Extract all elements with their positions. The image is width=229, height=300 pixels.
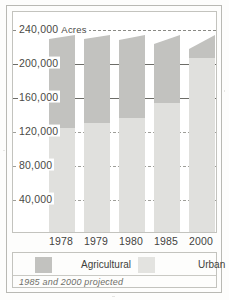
ytick-240000-text: 240,000 — [19, 23, 58, 35]
bar-segment-agricultural-1979 — [84, 35, 110, 123]
ytick-200000: 200,000 — [18, 57, 60, 69]
ytick-240000: 240,000Acres — [18, 23, 89, 35]
bar-segment-urban-1980 — [119, 118, 145, 232]
xtick-1979: 1979 — [81, 235, 111, 247]
ytick-80000: 80,000 — [18, 159, 54, 171]
bar-2000 — [189, 35, 215, 232]
legend-swatch-urban-icon — [138, 257, 155, 273]
chart-footnote: 1985 and 2000 projected — [19, 277, 123, 287]
bar-segment-urban-1985 — [154, 103, 180, 232]
ytick-160000: 160,000 — [18, 91, 60, 103]
bar-segment-agricultural-2000 — [189, 35, 215, 58]
legend-swatch-agricultural-icon — [35, 257, 52, 273]
plot-area: 240,000Acres 200,000 160,000 120,000 80,… — [13, 12, 216, 232]
x-axis: 1978 1979 1980 1985 2000 — [12, 235, 217, 251]
legend-item-agricultural: Agricultural — [35, 256, 155, 275]
bar-segment-agricultural-1978 — [49, 35, 75, 128]
bar-1979 — [84, 35, 110, 232]
scan-speck — [3, 150, 5, 151]
bar-segment-agricultural-1985 — [154, 35, 180, 103]
xtick-1978: 1978 — [46, 235, 76, 247]
bar-segment-urban-1978 — [49, 128, 75, 232]
ytick-40000: 40,000 — [18, 193, 54, 205]
legend-label-agricultural: Agricultural — [81, 259, 131, 270]
legend-divider — [13, 275, 216, 276]
bar-segment-urban-1979 — [84, 123, 110, 232]
bar-1980 — [119, 35, 145, 232]
legend: Agricultural Urban 1985 and 2000 project… — [12, 252, 217, 288]
scan-speck — [112, 296, 115, 297]
chart-page: 240,000Acres 200,000 160,000 120,000 80,… — [0, 0, 229, 300]
scan-speck — [224, 90, 225, 92]
plot-frame: 240,000Acres 200,000 160,000 120,000 80,… — [12, 11, 217, 233]
bar-segment-urban-2000 — [189, 58, 215, 232]
bar-segment-agricultural-1980 — [119, 35, 145, 118]
xtick-1985: 1985 — [151, 235, 181, 247]
bar-1985 — [154, 35, 180, 232]
legend-label-urban: Urban — [198, 259, 225, 270]
xtick-1980: 1980 — [116, 235, 146, 247]
axis-unit-label: Acres — [58, 24, 86, 35]
xtick-2000: 2000 — [186, 235, 216, 247]
ytick-120000: 120,000 — [18, 125, 60, 137]
legend-item-urban: Urban — [138, 256, 218, 275]
legend-items: Agricultural Urban — [13, 256, 216, 276]
